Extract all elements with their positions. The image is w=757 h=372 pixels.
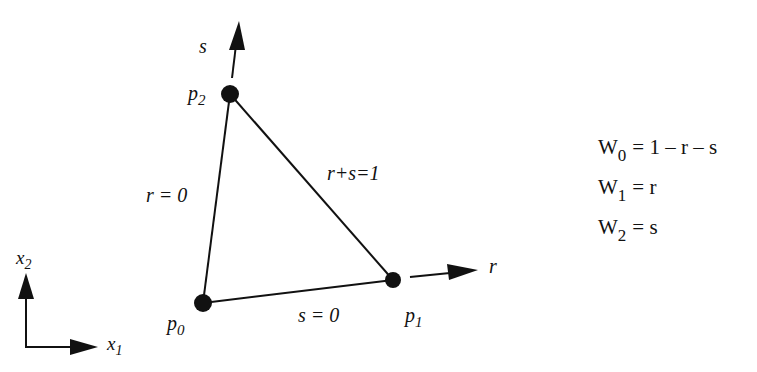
label-edge-r0: r = 0 — [146, 184, 187, 206]
equation-w2: W2= s — [598, 215, 658, 245]
point-p1 — [385, 272, 401, 288]
edge-r0 — [203, 94, 230, 303]
edge-rs1 — [230, 94, 393, 280]
point-p2 — [221, 85, 239, 103]
label-x1-axis: x1 — [106, 333, 122, 358]
triangle-diagram: p0 p1 p2 s r r = 0 s = 0 r+s=1 x2 x1 W0=… — [0, 0, 757, 372]
point-p0 — [194, 294, 212, 312]
label-edge-rs1: r+s=1 — [327, 162, 380, 184]
weights-equations: W0= 1 – r – s W1= r W2= s — [598, 135, 717, 245]
r-axis-arrowhead-icon — [447, 264, 478, 280]
x2-axis-arrowhead-icon — [18, 273, 34, 299]
label-x2-axis: x2 — [15, 247, 31, 272]
x1-axis-arrowhead-icon — [70, 339, 98, 355]
equation-w0: W0= 1 – r – s — [598, 135, 717, 165]
label-edge-s0: s = 0 — [298, 304, 339, 326]
r-axis-line — [410, 273, 450, 277]
label-r-axis: r — [489, 255, 497, 277]
edge-s0 — [203, 280, 393, 303]
label-s-axis: s — [199, 35, 207, 57]
equation-w1: W1= r — [598, 175, 656, 205]
label-p2: p2 — [186, 82, 206, 108]
label-p1: p1 — [403, 304, 423, 330]
s-axis-arrowhead-icon — [229, 21, 245, 50]
label-p0: p0 — [165, 312, 185, 338]
